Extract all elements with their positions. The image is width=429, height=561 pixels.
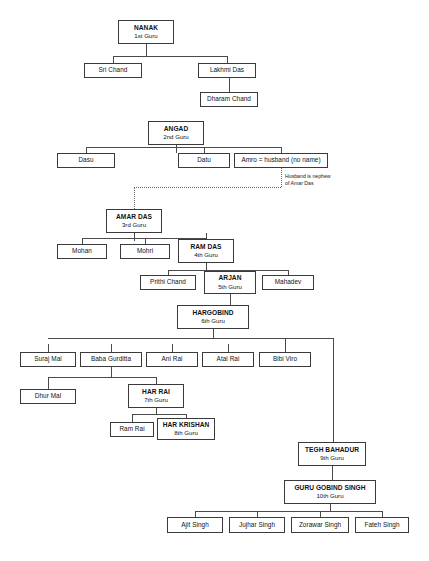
connector-line [195, 511, 382, 512]
node-dasu: Dasu [57, 153, 115, 168]
connector-line [48, 377, 156, 378]
connector-line [113, 56, 227, 57]
node-lakhmi_das: Lakhmi Das [198, 63, 256, 78]
node-name: Mahadev [275, 279, 302, 286]
connector-line [156, 377, 157, 384]
node-arjan: ARJAN5th Guru [204, 271, 256, 294]
node-name: GURU GOBIND SINGH [294, 485, 365, 492]
node-ram_rai: Ram Rai [110, 422, 154, 437]
connector-line [172, 344, 173, 352]
connector-line [285, 338, 286, 352]
node-name: Datu [197, 157, 211, 164]
node-prithi_chand: Prithi Chand [140, 275, 196, 290]
connector-line [230, 294, 231, 305]
node-name: Mohri [137, 248, 153, 255]
connector-line [206, 263, 207, 270]
connector-line [111, 367, 112, 377]
node-name: Baba Gurditta [91, 356, 131, 363]
node-angad: ANGAD2nd Guru [148, 121, 204, 145]
node-nanak: NANAK1st Guru [118, 20, 174, 44]
node-zorawar_singh: Zorawar Singh [291, 517, 349, 533]
node-ani_rai: Ani Rai [146, 352, 198, 367]
node-name: Sri Chand [99, 67, 128, 74]
node-sri_chand: Sri Chand [84, 63, 142, 78]
node-guru-rank: 10th Guru [316, 493, 343, 499]
node-mahadev: Mahadev [262, 275, 314, 290]
node-guru-rank: 7th Guru [144, 397, 168, 403]
node-name: Mohan [72, 248, 92, 255]
node-guru-rank: 2nd Guru [163, 134, 188, 140]
node-suraj_mal: Suraj Mal [20, 352, 76, 367]
node-guru-rank: 6th Guru [201, 318, 225, 324]
connector-line [113, 56, 114, 63]
node-mohri: Mohri [120, 244, 170, 259]
node-baba_gurditta: Baba Gurditta [80, 352, 142, 367]
node-name: Prithi Chand [150, 279, 186, 286]
node-name: Bibi Viro [273, 356, 297, 363]
node-name: Dhur Mal [35, 393, 61, 400]
node-guru-rank: 1st Guru [134, 33, 157, 39]
node-guru-rank: 4th Guru [194, 252, 218, 258]
node-guru-rank: 3rd Guru [122, 222, 146, 228]
connector-line [333, 338, 334, 442]
connector-line [332, 466, 333, 480]
node-hargobind: HARGOBIND6th Guru [177, 305, 249, 329]
node-name: Zorawar Singh [299, 522, 341, 529]
node-name: Amro = husband (no name) [241, 157, 320, 164]
node-name: Lakhmi Das [210, 67, 244, 74]
node-name: ARJAN [219, 275, 242, 282]
connector-line [213, 329, 214, 338]
connector-line [48, 377, 49, 389]
node-datu: Datu [178, 153, 230, 168]
node-name: Jujhar Singh [239, 522, 275, 529]
node-amro: Amro = husband (no name) [234, 153, 328, 168]
node-har_krishan: HAR KRISHAN8th Guru [157, 418, 215, 440]
connector-line [132, 414, 133, 422]
connector-line [86, 147, 281, 148]
node-dhur_mal: Dhur Mal [20, 389, 76, 404]
connector-line [228, 344, 229, 352]
node-mohan: Mohan [57, 244, 107, 259]
connector-line [134, 233, 135, 241]
genealogy-diagram: NANAK1st GuruSri ChandLakhmi DasDharam C… [0, 0, 429, 561]
connector-line [48, 344, 49, 352]
node-name: NANAK [134, 25, 158, 32]
node-name: Suraj Mal [34, 356, 61, 363]
node-name: ANGAD [164, 126, 188, 133]
node-amar_das: AMAR DAS3rd Guru [106, 209, 162, 233]
node-bibi_viro: Bibi Viro [259, 352, 311, 367]
node-guru-rank: 5th Guru [218, 284, 242, 290]
node-dharam_chand: Dharam Chand [200, 92, 258, 107]
node-name: RAM DAS [190, 244, 221, 251]
node-guru-rank: 8th Guru [174, 430, 198, 436]
connector-line [111, 344, 112, 352]
node-name: Dasu [78, 157, 93, 164]
connector-line [227, 56, 228, 63]
node-fateh_singh: Fateh Singh [355, 517, 409, 533]
node-name: HAR RAI [142, 389, 170, 396]
connector-line [48, 338, 333, 339]
node-ram_das: RAM DAS4th Guru [178, 239, 234, 263]
node-name: Fateh Singh [364, 522, 399, 529]
annotation-husband_note: Husband is nephew of Amar Das [285, 173, 331, 187]
node-name: HARGOBIND [192, 310, 233, 317]
dotted-connector-line [134, 187, 281, 188]
node-name: AMAR DAS [116, 214, 152, 221]
node-gobind_singh: GURU GOBIND SINGH10th Guru [284, 480, 376, 504]
node-har_rai: HAR RAI7th Guru [128, 384, 184, 408]
node-jujhar_singh: Jujhar Singh [229, 517, 285, 533]
node-name: Atal Rai [217, 356, 240, 363]
node-name: Ajit Singh [181, 522, 209, 529]
node-tegh_bahadur: TEGH BAHADUR9th Guru [298, 442, 366, 466]
node-name: Ani Rai [162, 356, 183, 363]
node-name: TEGH BAHADUR [305, 447, 359, 454]
node-atal_rai: Atal Rai [202, 352, 254, 367]
dotted-connector-line [281, 168, 282, 187]
connector-line [132, 414, 186, 415]
node-guru-rank: 9th Guru [320, 455, 344, 461]
node-ajit_singh: Ajit Singh [167, 517, 223, 533]
node-name: Dharam Chand [207, 96, 251, 103]
connector-line [330, 504, 331, 511]
connector-line [229, 78, 230, 92]
node-name: Ram Rai [119, 426, 144, 433]
